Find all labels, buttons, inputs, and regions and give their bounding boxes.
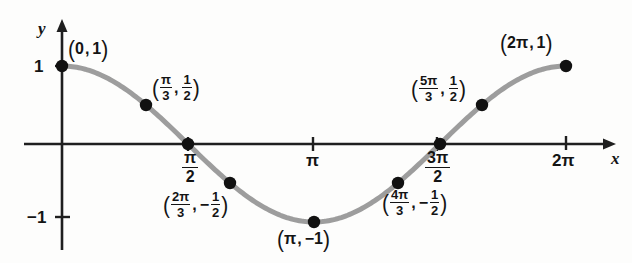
- data-point-p7: [476, 99, 488, 111]
- fraction-pi-over-3: π 3: [160, 73, 172, 102]
- y-tick-label-minus-1: −1: [27, 209, 46, 226]
- fraction-one-half: 1 2: [211, 190, 220, 219]
- cosine-graph-figure: y x 1 −1 π 2 π 3π 2 2π ( 0 , 1 ) ( π 3 ,: [0, 0, 632, 263]
- annotation-two-pi-over-3-point: ( 2π 3 , − 1 2 ): [163, 190, 228, 219]
- fraction-4pi-over-3: 4π 3: [390, 188, 409, 217]
- fraction-3pi-over-2: 3π 2: [425, 150, 450, 185]
- fraction-2pi-over-3: 2π 3: [171, 190, 190, 219]
- x-axis: [24, 139, 616, 150]
- y-tick-label-1: 1: [34, 58, 43, 75]
- y-axis: [57, 19, 68, 250]
- data-point-p3: [224, 177, 236, 189]
- fraction-pi-over-2: π 2: [182, 150, 198, 185]
- fraction-one-half: 1 2: [182, 73, 191, 102]
- x-tick-label-pi: π: [306, 152, 319, 169]
- data-point-p0: [56, 60, 68, 72]
- annotation-four-pi-over-3-point: ( 4π 3 , − 1 2 ): [382, 188, 447, 217]
- x-tick-label-2pi: 2π: [552, 152, 574, 169]
- fraction-5pi-over-3: 5π 3: [419, 74, 438, 103]
- data-point-p1: [140, 99, 152, 111]
- annotation-pi-point: ( π , −1 ): [277, 228, 330, 249]
- annotation-five-pi-over-3-point: ( 5π 3 , 1 2 ): [411, 74, 466, 103]
- data-point-p4: [308, 216, 320, 228]
- data-point-p8: [560, 60, 572, 72]
- y-axis-label: y: [38, 20, 46, 37]
- annotation-two-pi-point: ( 2π , 1 ): [500, 32, 553, 53]
- annotation-origin-point: ( 0 , 1 ): [68, 38, 108, 59]
- fraction-one-half: 1 2: [430, 188, 439, 217]
- annotation-pi-over-3-point: ( π 3 , 1 2 ): [152, 73, 200, 102]
- x-axis-label: x: [611, 150, 620, 167]
- x-tick-label-3pi-over-2: 3π 2: [424, 150, 451, 185]
- x-tick-label-pi-over-2: π 2: [181, 150, 199, 185]
- fraction-one-half: 1 2: [449, 74, 458, 103]
